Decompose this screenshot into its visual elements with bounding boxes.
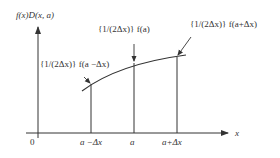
pointer-arrow-left bbox=[84, 77, 90, 83]
tick-label-a: a bbox=[130, 137, 135, 147]
tick-label-a-minus-dx: a −Δx bbox=[80, 137, 102, 147]
x-axis-label: x bbox=[234, 128, 239, 138]
annotation-f-a-plus-dx: {1/(2Δx)} f(a+Δx) bbox=[190, 19, 257, 29]
y-axis-label: f(x)D(x, a) bbox=[16, 10, 54, 20]
tick-label-a-plus-dx: a+Δx bbox=[162, 137, 182, 147]
annotation-f-a: {1/(2Δx)} f(a) bbox=[98, 24, 150, 34]
origin-label: 0 bbox=[30, 137, 35, 147]
pointer-arrow-right bbox=[178, 37, 191, 55]
diagram-canvas: f(x)D(x, a) x 0 a −Δx a a+Δx {1/(2Δx)} f… bbox=[0, 0, 280, 158]
annotation-f-a-minus-dx: {1/(2Δx)} f(a −Δx) bbox=[40, 59, 109, 69]
